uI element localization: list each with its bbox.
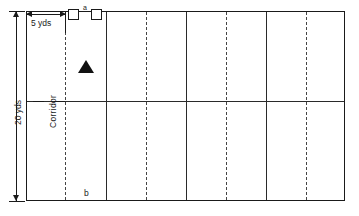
- grid-line-dashed-1: [65, 12, 66, 200]
- grid-line-dashed-4: [306, 12, 307, 200]
- grid-line-midline: [27, 101, 344, 102]
- dim-width-arrow-left: [26, 11, 32, 17]
- grid-line-solid-2: [186, 12, 187, 200]
- triangle-marker: [78, 60, 94, 73]
- corridor-leader-left: [33, 101, 44, 102]
- grid-line-dashed-2: [146, 12, 147, 200]
- square-marker-right: [91, 9, 102, 20]
- label-height-dimension: 20 yds: [14, 100, 23, 125]
- square-marker-left: [68, 9, 79, 20]
- grid-line-solid-3: [266, 12, 267, 200]
- grid-line-solid-1: [106, 12, 107, 200]
- label-a: a: [83, 4, 87, 11]
- field-diagram: a b Corridor 5 yds 20 yds: [0, 0, 359, 216]
- label-b: b: [84, 189, 89, 198]
- dim-width-arrow-right: [60, 11, 66, 17]
- dim-height-ext-bottom: [9, 201, 25, 202]
- corridor-leader-right: [54, 101, 65, 102]
- dim-height-arrow-bottom: [13, 195, 19, 201]
- label-width-dimension: 5 yds: [31, 19, 51, 28]
- label-corridor: Corridor: [49, 95, 58, 128]
- dim-height-arrow-top: [13, 11, 19, 17]
- field-area: [26, 11, 345, 201]
- grid-line-dashed-3: [226, 12, 227, 200]
